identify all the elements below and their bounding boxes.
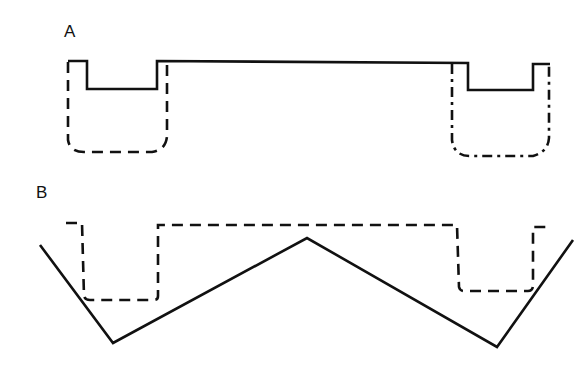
panel-b-solid-zigzag: [40, 238, 573, 347]
panel-b-dashed-profile: [66, 223, 548, 300]
panel-a-solid-profile: [68, 61, 550, 90]
panel-a-dashed-left-well: [68, 62, 167, 152]
panel-a-dashed-right-well: [452, 64, 549, 156]
diagram-canvas: [0, 0, 584, 372]
